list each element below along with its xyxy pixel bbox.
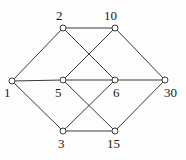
graph-node-1[interactable] bbox=[9, 78, 15, 84]
edge-layer bbox=[12, 28, 165, 131]
graph-node-6[interactable] bbox=[112, 77, 118, 83]
graph-node-15[interactable] bbox=[112, 128, 118, 134]
graph-figure: 12105630315 bbox=[0, 0, 186, 160]
graph-node-label-3: 3 bbox=[58, 137, 65, 150]
graph-node-10[interactable] bbox=[112, 25, 118, 31]
graph-node-2[interactable] bbox=[60, 25, 66, 31]
graph-node-label-5: 5 bbox=[55, 86, 62, 99]
graph-node-label-6: 6 bbox=[113, 86, 120, 99]
graph-node-5[interactable] bbox=[60, 77, 66, 83]
graph-node-label-2: 2 bbox=[56, 9, 63, 22]
graph-edge-15-30 bbox=[115, 80, 165, 131]
graph-edge-10-30 bbox=[115, 28, 165, 80]
graph-node-30[interactable] bbox=[162, 77, 168, 83]
graph-node-3[interactable] bbox=[60, 128, 66, 134]
graph-node-label-10: 10 bbox=[104, 9, 117, 22]
graph-edge-1-5 bbox=[12, 80, 63, 81]
graph-canvas bbox=[0, 0, 186, 160]
graph-node-label-15: 15 bbox=[107, 137, 120, 150]
graph-node-label-1: 1 bbox=[4, 86, 11, 99]
graph-edge-1-2 bbox=[12, 28, 63, 81]
graph-node-label-30: 30 bbox=[164, 86, 177, 99]
